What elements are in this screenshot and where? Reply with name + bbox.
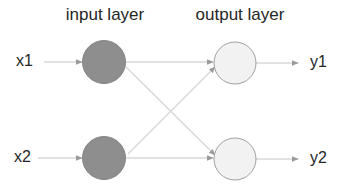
output-label-y2: y2 <box>310 149 327 167</box>
output-node-2 <box>214 138 256 180</box>
output-layer-title: output layer <box>190 6 290 24</box>
input-label-x1: x1 <box>16 52 33 70</box>
output-node-1 <box>214 42 256 84</box>
edge-input2-to-output1 <box>128 67 215 154</box>
neural-network-diagram: input layer output layer x1 x2 y1 y2 <box>0 0 346 190</box>
input-node-2 <box>83 137 126 180</box>
input-node-1 <box>83 41 126 84</box>
input-layer-title: input layer <box>57 6 153 24</box>
edge-input1-to-output2 <box>125 66 215 155</box>
diagram-graphics <box>0 0 346 190</box>
input-label-x2: x2 <box>14 148 31 166</box>
output-label-y1: y1 <box>310 53 327 71</box>
